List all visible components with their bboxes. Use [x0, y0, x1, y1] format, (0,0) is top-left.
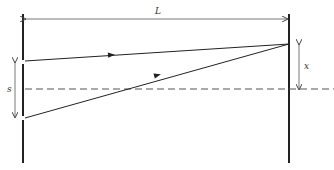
- ray-upper-line: [25, 44, 289, 61]
- double-slit-diagram: L s x: [0, 0, 334, 170]
- x-label: x: [304, 61, 309, 71]
- distance-L-dimension: L: [25, 6, 287, 19]
- arrow-head-icon: [108, 52, 115, 58]
- ray-lower: [25, 44, 289, 118]
- arrow-head-icon: [153, 72, 161, 79]
- ray-upper: [25, 44, 289, 61]
- slit-separation-s-dimension: s: [7, 62, 15, 117]
- s-label: s: [7, 84, 12, 94]
- ray-lower-line: [25, 44, 289, 118]
- L-label: L: [154, 6, 161, 16]
- screen-offset-x-dimension: x: [299, 44, 309, 89]
